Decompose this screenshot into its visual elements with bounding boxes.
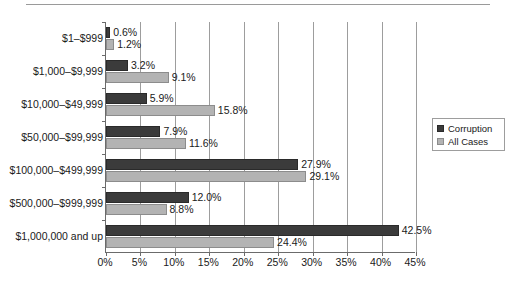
bar-group: 42.5%24.4% xyxy=(106,225,415,253)
legend-label-corruption: Corruption xyxy=(448,123,492,134)
bar-value-label: 3.2% xyxy=(131,60,155,71)
bar-corruption xyxy=(106,93,147,104)
category-label: $100,000–$499,999 xyxy=(0,164,103,176)
x-axis-tick-label: 10% xyxy=(163,256,184,268)
bar-group: 0.6%1.2% xyxy=(106,27,415,55)
bar-corruption xyxy=(106,192,189,203)
bar-group: 7.9%11.6% xyxy=(106,126,415,154)
bar-allcases xyxy=(106,204,167,215)
bar-value-label: 7.9% xyxy=(163,126,187,137)
y-axis-tick xyxy=(102,22,106,23)
bar-allcases xyxy=(106,237,274,248)
bar-corruption xyxy=(106,126,160,137)
bar-value-label: 9.1% xyxy=(172,72,196,83)
bar-value-label: 12.0% xyxy=(192,192,222,203)
bar-group: 5.9%15.8% xyxy=(106,93,415,121)
category-label: $500,000–$999,999 xyxy=(0,197,103,209)
legend-swatch-corruption-icon xyxy=(437,125,444,132)
plot-area: 0.6%1.2%3.2%9.1%5.9%15.8%7.9%11.6%27.9%2… xyxy=(105,22,415,253)
category-label: $50,000–$99,999 xyxy=(0,131,103,143)
x-axis-tick-labels: 0%5%10%15%20%25%30%35%40%45% xyxy=(0,256,513,272)
y-axis-tick xyxy=(102,187,106,188)
category-label: $10,000–$49,999 xyxy=(0,98,103,110)
x-axis-tick-label: 0% xyxy=(97,256,112,268)
bar-corruption xyxy=(106,225,399,236)
bar-value-label: 8.8% xyxy=(170,204,194,215)
category-label: $1,000–$9,999 xyxy=(0,65,103,77)
y-axis-tick xyxy=(102,121,106,122)
bar-value-label: 0.6% xyxy=(113,27,137,38)
bar-allcases xyxy=(106,72,169,83)
bar-value-label: 29.1% xyxy=(309,171,339,182)
x-axis-tick-label: 20% xyxy=(232,256,253,268)
x-axis-tick-label: 30% xyxy=(301,256,322,268)
bar-value-label: 27.9% xyxy=(301,159,331,170)
bar-allcases xyxy=(106,138,186,149)
category-label: $1,000,000 and up xyxy=(0,230,103,242)
bar-allcases xyxy=(106,39,114,50)
header-divider xyxy=(26,4,490,5)
category-axis-labels: $1–$999$1,000–$9,999$10,000–$49,999$50,0… xyxy=(0,22,103,253)
bar-allcases xyxy=(106,105,215,116)
y-axis-tick xyxy=(102,88,106,89)
category-label: $1–$999 xyxy=(0,32,103,44)
bar-corruption xyxy=(106,27,110,38)
bar-value-label: 1.2% xyxy=(117,39,141,50)
gridline xyxy=(416,22,417,252)
bar-value-label: 42.5% xyxy=(402,225,432,236)
y-axis-tick xyxy=(102,220,106,221)
bar-group: 12.0%8.8% xyxy=(106,192,415,220)
x-axis-tick-label: 25% xyxy=(267,256,288,268)
bar-value-label: 15.8% xyxy=(218,105,248,116)
x-axis-tick-label: 45% xyxy=(404,256,425,268)
bar-allcases xyxy=(106,171,306,182)
bar-value-label: 11.6% xyxy=(189,138,218,149)
x-axis-tick-label: 40% xyxy=(370,256,391,268)
legend-swatch-all-cases-icon xyxy=(437,138,444,145)
chart-legend: Corruption All Cases xyxy=(432,118,505,151)
x-axis-tick-label: 5% xyxy=(132,256,147,268)
legend-label-all-cases: All Cases xyxy=(448,136,488,147)
bar-value-label: 5.9% xyxy=(150,93,174,104)
y-axis-tick xyxy=(102,154,106,155)
bar-corruption xyxy=(106,159,298,170)
bar-value-label: 24.4% xyxy=(277,237,307,248)
legend-item-all-cases: All Cases xyxy=(437,135,500,148)
x-axis-tick-label: 15% xyxy=(198,256,219,268)
chart-figure: $1–$999$1,000–$9,999$10,000–$49,999$50,0… xyxy=(0,0,513,286)
x-axis-tick-label: 35% xyxy=(336,256,357,268)
legend-item-corruption: Corruption xyxy=(437,122,500,135)
y-axis-tick xyxy=(102,55,106,56)
bar-group: 3.2%9.1% xyxy=(106,60,415,88)
bar-group: 27.9%29.1% xyxy=(106,159,415,187)
bar-corruption xyxy=(106,60,128,71)
